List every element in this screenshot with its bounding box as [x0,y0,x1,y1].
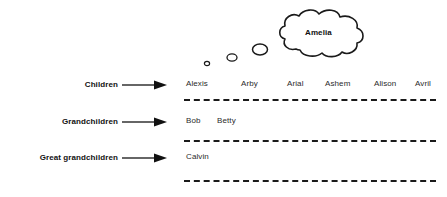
generation-label-great-grandchildren: Great grandchildren [8,153,118,162]
person-name: Calvin [186,152,209,161]
person-name: Betty [217,116,236,125]
generation-divider [184,180,436,182]
person-name: Avril [415,79,431,88]
root-person-label: Amelia [305,28,332,37]
right-arrow-icon [122,116,168,128]
person-name: Alexis [186,79,208,88]
generation-divider [184,99,436,101]
generation-label-children: Children [40,80,118,89]
diagram-canvas: Amelia Children Alexis Arby Arial Ashem … [0,0,447,197]
thought-bubble-trail-icon [200,40,280,70]
person-name: Arial [287,79,304,88]
generation-divider [184,140,436,142]
right-arrow-icon [122,79,168,91]
person-name: Bob [186,116,201,125]
person-name: Alison [374,79,396,88]
person-name: Arby [241,79,258,88]
person-name: Ashem [325,79,350,88]
generation-label-grandchildren: Grandchildren [18,117,118,126]
right-arrow-icon [122,152,168,164]
